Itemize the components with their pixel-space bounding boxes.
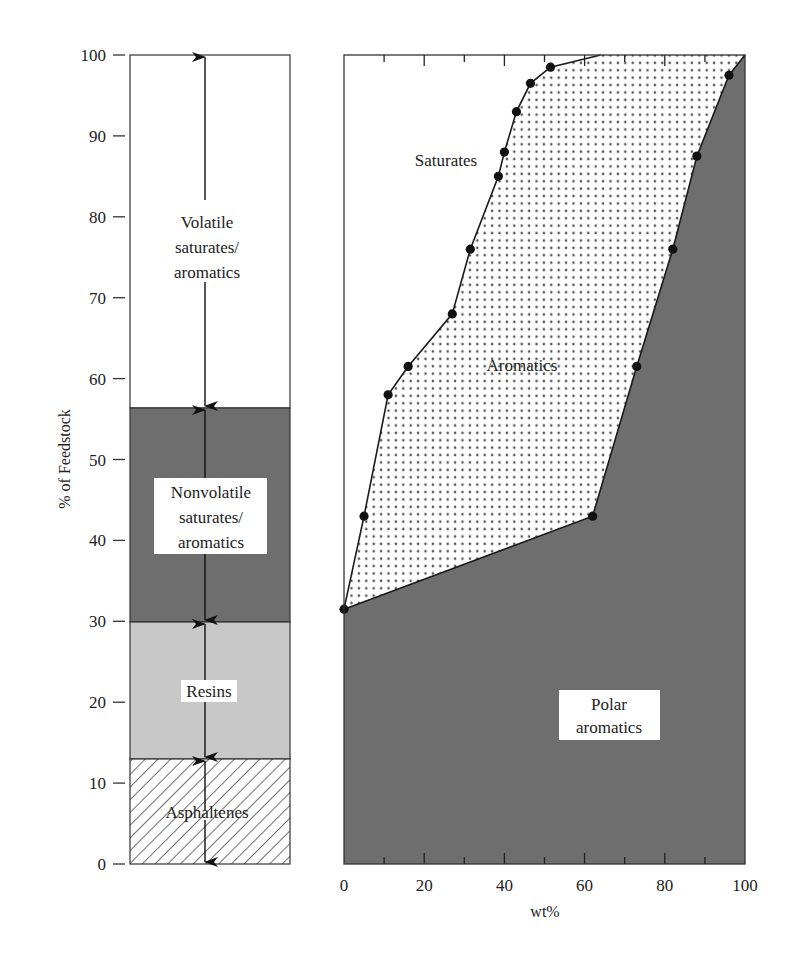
left-stacked-bar-chart: % of Feedstock 0102030405060708090100 Vo… (56, 46, 290, 874)
label-nonvolatile: Nonvolatile saturates/ aromatics (154, 478, 267, 554)
data-point-marker (448, 309, 457, 318)
y-tick-label: 50 (89, 451, 106, 470)
y-tick-label: 80 (89, 208, 106, 227)
svg-text:aromatics: aromatics (178, 533, 244, 552)
x-tick-label: 40 (496, 876, 513, 895)
svg-text:saturates/: saturates/ (179, 508, 243, 527)
svg-text:Aromatics: Aromatics (487, 356, 558, 375)
data-point-marker (404, 362, 413, 371)
x-axis-title: wt% (530, 903, 559, 920)
data-point-marker (500, 147, 509, 156)
figure: % of Feedstock 0102030405060708090100 Vo… (0, 0, 799, 963)
svg-text:saturates/: saturates/ (175, 238, 239, 257)
data-point-marker (466, 245, 475, 254)
x-tick-label: 100 (732, 876, 758, 895)
svg-text:Nonvolatile: Nonvolatile (171, 483, 251, 502)
data-point-marker (512, 107, 521, 116)
svg-text:Volatile: Volatile (181, 213, 234, 232)
svg-text:Polar: Polar (591, 695, 627, 714)
y-tick-label: 70 (89, 289, 106, 308)
data-point-marker (526, 79, 535, 88)
x-tick-label: 60 (576, 876, 593, 895)
y-tick-label: 90 (89, 127, 106, 146)
svg-text:Asphaltenes: Asphaltenes (165, 803, 248, 822)
data-point-marker (692, 152, 701, 161)
label-polar-aromatics: Polar aromatics (559, 690, 660, 740)
x-tick-label: 0 (340, 876, 349, 895)
y-tick-label: 10 (89, 774, 106, 793)
data-point-marker (724, 71, 733, 80)
data-point-marker (588, 512, 597, 521)
data-point-marker (494, 172, 503, 181)
label-saturates: Saturates (415, 151, 477, 170)
y-tick-label: 0 (98, 855, 107, 874)
y-tick-label: 30 (89, 612, 106, 631)
x-tick-label: 20 (416, 876, 433, 895)
data-point-marker (359, 512, 368, 521)
label-resins: Resins (181, 680, 237, 702)
y-tick-label: 40 (89, 531, 106, 550)
y-axis-title: % of Feedstock (56, 409, 73, 509)
y-tick-label: 20 (89, 693, 106, 712)
svg-text:Resins: Resins (186, 682, 231, 701)
right-area-chart: 020406080100 wt% Saturates Aromatics Pol… (339, 55, 757, 920)
y-axis: 0102030405060708090100 (81, 46, 126, 874)
svg-text:aromatics: aromatics (174, 263, 240, 282)
data-point-marker (668, 245, 677, 254)
label-asphaltenes: Asphaltenes (165, 803, 248, 822)
x-tick-label: 80 (656, 876, 673, 895)
data-point-marker (384, 390, 393, 399)
label-volatile: Volatile saturates/ aromatics (174, 213, 240, 282)
data-point-marker (546, 63, 555, 72)
y-tick-label: 60 (89, 370, 106, 389)
data-point-marker (632, 362, 641, 371)
svg-text:aromatics: aromatics (576, 718, 642, 737)
y-tick-label: 100 (81, 46, 107, 65)
label-aromatics: Aromatics (487, 356, 558, 375)
